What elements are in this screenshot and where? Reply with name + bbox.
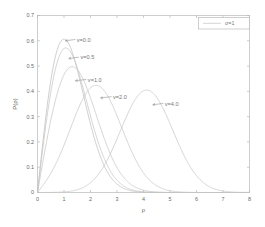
curve-v10 <box>38 67 250 193</box>
xtick-8: 8 <box>248 196 251 202</box>
ytick-6: 0.6 <box>27 38 35 44</box>
xtick-4: 4 <box>142 196 145 202</box>
x-axis-tick-labels: 0 1 2 3 4 5 6 7 8 <box>36 196 251 202</box>
curve-label-v0: v=0.0 <box>77 37 91 43</box>
annotation-labels: v=0.0 v=0.5 v=1.0 v=2.0 v=4.0 <box>77 37 179 107</box>
y-axis-tick-labels: 0 0.1 0.2 0.3 0.4 0.5 0.6 0.7 <box>27 12 35 195</box>
figure-container: 0 1 2 3 4 5 6 7 8 0 0.1 0.2 0.3 0.4 0.5 … <box>0 0 265 227</box>
xtick-7: 7 <box>222 196 225 202</box>
curve-label-v2: v=2.0 <box>113 94 127 100</box>
ytick-1: 0.1 <box>27 164 35 170</box>
ytick-2: 0.2 <box>27 139 35 145</box>
x-axis-tickmarks <box>38 16 250 193</box>
curve-label-v05: v=0.5 <box>80 54 94 60</box>
xtick-0: 0 <box>36 196 39 202</box>
ytick-0: 0 <box>31 189 34 195</box>
curve-v05 <box>38 48 250 193</box>
curve-label-v1: v=1.0 <box>88 77 102 83</box>
ytick-3: 0.3 <box>27 114 35 120</box>
x-axis-title: ρ <box>142 207 146 213</box>
xtick-5: 5 <box>169 196 172 202</box>
curve-group <box>38 39 250 192</box>
legend[interactable]: σ=1 <box>199 18 250 30</box>
curve-label-v4: v=4.0 <box>165 101 179 107</box>
xtick-6: 6 <box>195 196 198 202</box>
ytick-5: 0.5 <box>27 63 35 69</box>
legend-label-sigma: σ=1 <box>225 20 234 26</box>
xtick-2: 2 <box>89 196 92 202</box>
curve-v00 <box>38 39 250 192</box>
y-axis-title: P(ρ) <box>12 98 18 109</box>
xtick-1: 1 <box>63 196 66 202</box>
plot-frame <box>38 16 250 193</box>
ytick-7: 0.7 <box>27 12 35 18</box>
curve-v40 <box>38 90 250 192</box>
curve-v20 <box>38 85 250 192</box>
xtick-3: 3 <box>116 196 119 202</box>
rice-pdf-chart: 0 1 2 3 4 5 6 7 8 0 0.1 0.2 0.3 0.4 0.5 … <box>0 0 265 227</box>
y-axis-tickmarks <box>38 16 250 193</box>
ytick-4: 0.4 <box>27 88 35 94</box>
